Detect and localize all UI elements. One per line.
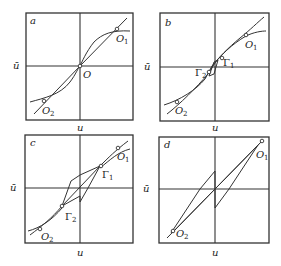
panel-d-point-O1-label: O xyxy=(256,149,264,160)
panel-b-point-O2-label: O xyxy=(175,105,183,116)
panel-a: a O O 1 O 2 u ū xyxy=(13,13,133,133)
panel-c-point-O1 xyxy=(116,146,120,150)
panel-d-loop-right xyxy=(215,145,258,208)
panel-c-point-G1-label: Γ xyxy=(102,169,109,180)
panel-a-point-O xyxy=(78,64,82,68)
panel-d-point-O2-label: O xyxy=(176,228,184,239)
panel-a-point-O1-label: O xyxy=(116,33,124,44)
panel-c-point-G2-subscript: 2 xyxy=(72,216,76,224)
panel-b-point-O1-subscript: 1 xyxy=(253,44,257,52)
panel-c-point-O2-subscript: 2 xyxy=(49,236,53,244)
panel-a-point-O1-subscript: 1 xyxy=(124,38,128,46)
panel-b: b O 1 O 2 Γ 1 Γ 2 u ū xyxy=(144,13,269,133)
panel-b-point-O2-subscript: 2 xyxy=(183,110,187,118)
panel-d-x-axis-label: u xyxy=(212,247,218,258)
panel-d-point-O2 xyxy=(171,229,175,233)
panel-d-label: d xyxy=(164,139,170,150)
panel-c-x-axis-label: u xyxy=(77,247,83,258)
panel-d-point-O1 xyxy=(260,139,264,143)
panel-d-y-axis-label: ū xyxy=(143,183,149,194)
panel-a-label: a xyxy=(30,15,36,26)
panel-c-point-G1-subscript: 1 xyxy=(109,174,113,182)
panel-c-point-O2-label: O xyxy=(41,231,49,242)
panel-b-point-G2-label: Γ xyxy=(195,67,202,78)
panel-b-label: b xyxy=(165,17,171,28)
panel-d: d O 1 O 2 u ū xyxy=(143,137,269,258)
panel-d-outer-strand xyxy=(173,141,262,232)
panel-b-point-O2 xyxy=(175,100,179,104)
panel-c-point-O1-label: O xyxy=(117,151,125,162)
panel-c-y-axis-label: ū xyxy=(10,182,16,193)
panel-d-point-O1-subscript: 1 xyxy=(264,154,268,162)
panel-b-point-G2-subscript: 2 xyxy=(202,72,206,80)
panel-b-x-axis-label: u xyxy=(212,122,218,133)
panel-c-point-G2-label: Γ xyxy=(65,211,72,222)
panel-c: c O 1 O 2 Γ 1 Γ 2 u ū xyxy=(10,135,133,258)
panel-c-point-G1 xyxy=(99,164,103,168)
panel-a-x-axis-label: u xyxy=(77,122,83,133)
panel-d-loop-left xyxy=(171,171,215,233)
panel-a-point-O2 xyxy=(42,99,46,103)
panel-b-point-O1-label: O xyxy=(245,39,253,50)
panel-b-y-axis-label: ū xyxy=(144,61,150,72)
panel-b-point-G2 xyxy=(207,70,211,74)
panel-b-point-G1-label: Γ xyxy=(223,57,230,68)
panel-d-point-O2-subscript: 2 xyxy=(184,233,188,241)
bifurcation-diagram-figure: a O O 1 O 2 u ū b O 1 O 2 Γ 1 Γ 2 u ū xyxy=(0,0,281,266)
panel-a-point-O1 xyxy=(115,27,119,31)
panel-c-point-O1-subscript: 1 xyxy=(125,156,129,164)
panel-a-point-O-label: O xyxy=(83,69,91,80)
panel-a-y-axis-label: ū xyxy=(13,60,19,71)
panel-a-point-O2-label: O xyxy=(42,105,50,116)
panel-b-point-O1 xyxy=(244,33,248,37)
panel-b-point-G1-subscript: 1 xyxy=(230,62,234,70)
panel-c-point-G2 xyxy=(60,204,64,208)
panel-c-label: c xyxy=(30,137,36,148)
panel-a-point-O2-subscript: 2 xyxy=(50,110,54,118)
